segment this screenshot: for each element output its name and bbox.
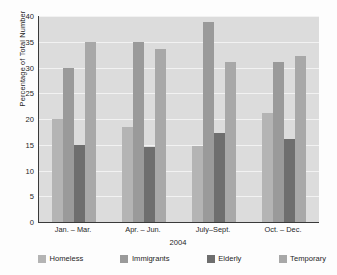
x-axis-tick-label: Oct. – Dec. [248, 225, 318, 234]
bar [63, 68, 74, 222]
legend-swatch [120, 255, 128, 263]
legend-label: Elderly [218, 254, 241, 263]
bar [122, 127, 133, 222]
bar [214, 133, 225, 222]
legend-swatch [279, 255, 287, 263]
bar [203, 22, 214, 222]
x-axis-title: 2004 [38, 238, 318, 247]
bar-groups [39, 16, 319, 222]
y-axis-tick-label: 25 [14, 89, 34, 98]
y-axis-tick-label: 35 [14, 37, 34, 46]
bar [295, 56, 306, 222]
y-axis-tick-label: 40 [14, 12, 34, 21]
legend-item: Temporary [279, 254, 326, 263]
x-axis-tick-label: Jan. – Mar. [38, 225, 108, 234]
bar [52, 119, 63, 222]
bar [155, 49, 166, 222]
bar-group [39, 16, 109, 222]
bar [225, 62, 236, 222]
bar-group [179, 16, 249, 222]
legend-swatch [38, 255, 46, 263]
plot-area [38, 16, 319, 223]
legend-swatch [207, 255, 215, 263]
legend: HomelessImmigrantsElderlyTemporary [38, 254, 326, 263]
y-axis-tick-labels: 0510152025303540 [14, 16, 34, 222]
x-axis-tick-label: July–Sept. [178, 225, 248, 234]
bar [133, 42, 144, 222]
legend-label: Temporary [290, 254, 326, 263]
legend-item: Homeless [38, 254, 83, 263]
bar [192, 146, 203, 222]
x-axis-tick-label: Apr. – Jun. [108, 225, 178, 234]
y-axis-tick-label: 10 [14, 166, 34, 175]
bar [262, 113, 273, 222]
bar [74, 145, 85, 222]
bar [144, 147, 155, 222]
bar [284, 139, 295, 222]
bar-chart-figure: Percentage of Total Number 0510152025303… [0, 0, 337, 275]
bar-group [249, 16, 319, 222]
legend-item: Elderly [207, 254, 242, 263]
y-axis-tick-label: 15 [14, 140, 34, 149]
legend-label: Homeless [50, 254, 84, 263]
x-axis-tick-labels: Jan. – Mar.Apr. – Jun.July–Sept.Oct. – D… [38, 225, 318, 234]
y-axis-tick-label: 30 [14, 63, 34, 72]
bar-group [109, 16, 179, 222]
legend-label: Immigrants [132, 254, 170, 263]
bar [273, 62, 284, 222]
y-axis-tick-label: 5 [14, 192, 34, 201]
bar [85, 42, 96, 222]
legend-item: Immigrants [120, 254, 169, 263]
y-axis-tick-label: 20 [14, 115, 34, 124]
y-axis-tick-label: 0 [14, 218, 34, 227]
